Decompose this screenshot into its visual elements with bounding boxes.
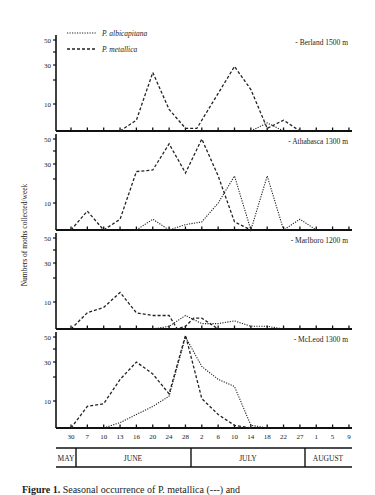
month-bar: MAYJUNEJULYAUGUST: [56, 448, 352, 467]
chart-panels: 103050- Berland 1500 m103050- Athabasca …: [44, 35, 352, 428]
series-metallica-line: [71, 139, 251, 230]
y-tick-label: 50: [44, 235, 52, 243]
x-tick-label: 27: [296, 433, 304, 441]
x-tick-label: 28: [182, 433, 190, 441]
x-tick-label: 30: [68, 433, 76, 441]
y-tick-label: 50: [44, 37, 52, 45]
x-tick-label: 20: [149, 433, 157, 441]
x-tick-label: 24: [166, 433, 174, 441]
series-metallica-line: [120, 67, 300, 132]
legend-label: P. albicapitana: [101, 29, 148, 38]
x-tick-label: 14: [247, 433, 255, 441]
x-tick-label: 10: [231, 433, 239, 441]
y-tick-label: 10: [44, 200, 52, 208]
series-albicapitana-line: [136, 176, 316, 230]
y-tick-label: 10: [44, 299, 52, 307]
panel-site-label: - Marlboro 1200 m: [291, 236, 348, 245]
y-tick-label: 30: [44, 161, 52, 169]
legend: P. albicapitanaP. metallica: [67, 29, 148, 54]
series-albicapitana-line: [153, 316, 300, 330]
y-axis-title: Numbers of moths collected/week: [20, 183, 29, 286]
legend-label: P. metallica: [101, 45, 138, 54]
month-label-august: AUGUST: [313, 454, 344, 463]
y-tick-label: 30: [44, 62, 52, 70]
y-tick-label: 10: [44, 101, 52, 109]
y-tick-label: 30: [44, 359, 52, 367]
x-tick-label: 13: [117, 433, 125, 441]
x-tick-label: 10: [100, 433, 108, 441]
panel-2: 103050- Athabasca 1300 m: [44, 134, 352, 230]
caption-text: Seasonal occurrence of P. metallica (---…: [60, 484, 240, 495]
panel-site-label: - Berland 1500 m: [295, 38, 348, 47]
x-tick-label: 18: [264, 433, 272, 441]
panel-3: 103050- Marlboro 1200 m: [44, 233, 352, 329]
x-tick-label: 2: [200, 433, 204, 441]
x-tick-label: 1: [315, 433, 319, 441]
x-tick-label: 22: [280, 433, 288, 441]
series-metallica-line: [71, 292, 218, 329]
x-tick-label: 7: [86, 433, 90, 441]
series-albicapitana-line: [104, 337, 268, 428]
x-tick-label: 5: [331, 433, 335, 441]
x-tick-label: 16: [133, 433, 141, 441]
caption-prefix: Figure 1.: [22, 484, 60, 495]
month-label-july: JULY: [239, 454, 257, 463]
y-tick-label: 50: [44, 334, 52, 342]
panel-1: 103050- Berland 1500 m: [44, 35, 352, 131]
y-tick-label: 50: [44, 136, 52, 144]
y-tick-label: 30: [44, 260, 52, 268]
y-axis-label: Numbers of moths collected/week: [20, 183, 29, 286]
figure-caption: Figure 1. Seasonal occurrence of P. meta…: [22, 484, 240, 495]
panel-site-label: - Athabasca 1300 m: [288, 137, 348, 146]
panel-4: 103050- McLeod 1300 m: [44, 332, 352, 428]
month-label-may: MAY: [58, 454, 75, 463]
x-axis: 307101316202428261014182227159: [68, 433, 352, 441]
y-tick-label: 10: [44, 398, 52, 406]
panel-site-label: - McLeod 1300 m: [294, 335, 349, 344]
x-tick-label: 6: [216, 433, 220, 441]
month-label-june: JUNE: [124, 454, 143, 463]
x-tick-label: 9: [347, 433, 351, 441]
